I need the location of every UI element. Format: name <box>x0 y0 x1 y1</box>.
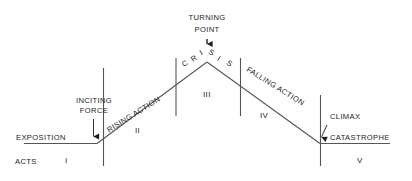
exposition-label: EXPOSITION <box>16 133 66 143</box>
turning-point-label-line1: TURNING <box>174 13 240 23</box>
climax-label: CLIMAX <box>330 112 360 122</box>
inciting-force-label-line1: INCITING <box>61 96 127 106</box>
act-numeral-1: I <box>65 156 68 167</box>
catastrophe-label: CATASTROPHE <box>330 133 390 143</box>
dramatic-structure-diagram: EXPOSITION INCITING FORCE RISING ACTION … <box>0 0 412 181</box>
acts-label: ACTS <box>15 157 37 167</box>
turning-point-label-line2: POINT <box>174 25 240 35</box>
act-numeral-2: II <box>135 126 140 137</box>
act-numeral-5: V <box>357 156 363 167</box>
act-numeral-4: IV <box>260 111 268 122</box>
climax-arrow <box>322 125 328 137</box>
act-numeral-3: III <box>203 90 211 101</box>
inciting-force-label-line2: FORCE <box>61 106 127 116</box>
